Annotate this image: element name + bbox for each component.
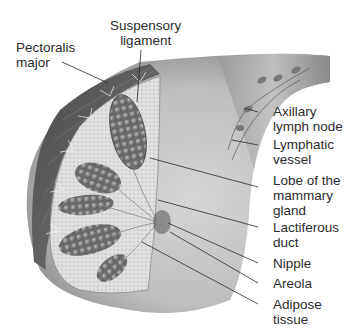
- label-lobe-of-mammary-gland: Lobe of the mammary gland: [273, 173, 341, 218]
- label-adipose-tissue: Adipose tissue: [273, 297, 322, 327]
- breast-anatomy-diagram: Pectoralis major Suspensory ligament Axi…: [0, 0, 353, 332]
- label-axillary-lymph-node: Axillary lymph node: [273, 104, 343, 134]
- label-pectoralis-major: Pectoralis major: [16, 40, 75, 70]
- label-suspensory-ligament: Suspensory ligament: [110, 18, 181, 48]
- nipple: [153, 210, 171, 234]
- label-lactiferous-duct: Lactiferous duct: [273, 220, 339, 250]
- label-areola: Areola: [273, 276, 312, 291]
- label-lymphatic-vessel: Lymphatic vessel: [273, 137, 334, 167]
- label-nipple: Nipple: [273, 256, 311, 271]
